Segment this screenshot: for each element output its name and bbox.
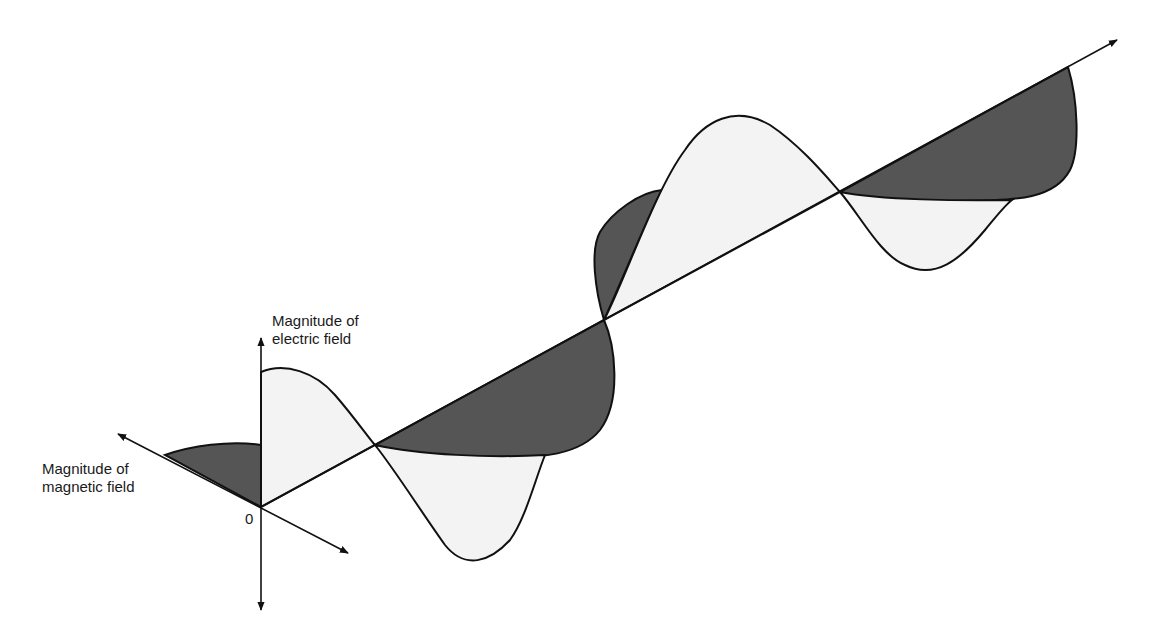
- magnetic-lobe-1: [375, 320, 614, 458]
- origin-label: 0: [245, 510, 253, 528]
- electric-field-label-line1: Magnitude of: [272, 312, 359, 330]
- electric-field-label-line2: electric field: [272, 330, 359, 348]
- electric-field-label: Magnitude of electric field: [272, 312, 359, 348]
- em-wave-diagram: [0, 0, 1151, 642]
- electric-lobe-3: [840, 192, 1012, 270]
- magnetic-lobe-3: [840, 67, 1077, 201]
- propagation-axis: [261, 40, 1117, 507]
- magnetic-lobe-0: [165, 443, 261, 507]
- electric-lobe-0: [261, 368, 375, 507]
- electric-lobe-1: [375, 445, 545, 560]
- magnetic-field-label: Magnitude of magnetic field: [42, 460, 135, 496]
- magnetic-field-label-line2: magnetic field: [42, 478, 135, 496]
- magnetic-field-label-line1: Magnitude of: [42, 460, 135, 478]
